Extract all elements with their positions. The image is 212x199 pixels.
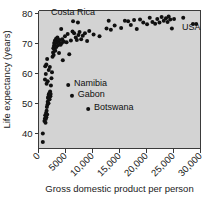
labeled-data-point: [86, 107, 90, 111]
data-point: [76, 21, 80, 25]
data-point: [132, 18, 136, 22]
data-point: [67, 52, 71, 56]
data-point: [181, 16, 185, 20]
data-point: [52, 53, 56, 57]
x-tick-label: 30,000: [176, 150, 204, 178]
y-tick-label: 50: [22, 98, 33, 109]
data-point: [45, 109, 49, 113]
plot-background: [39, 11, 201, 149]
data-point: [92, 33, 96, 37]
data-point: [57, 51, 61, 55]
data-point: [85, 39, 89, 43]
data-point: [46, 79, 50, 83]
data-point: [138, 18, 142, 22]
x-tick-label: 10,000: [68, 150, 96, 178]
data-point: [78, 30, 82, 34]
data-point: [41, 140, 45, 144]
data-point: [61, 58, 65, 62]
data-point: [157, 21, 161, 25]
data-point: [44, 121, 48, 125]
data-point: [83, 31, 87, 35]
x-tick-label: 5000: [46, 150, 69, 173]
data-point: [46, 101, 50, 105]
data-point: [105, 27, 109, 31]
x-tick-label: 20,000: [122, 150, 150, 178]
data-point: [69, 39, 73, 43]
data-point: [107, 19, 111, 23]
data-point: [172, 17, 176, 21]
data-point: [65, 40, 69, 44]
data-point: [66, 32, 70, 36]
y-tick-label: 60: [22, 68, 33, 79]
data-point: [50, 70, 54, 74]
x-axis-ticks: 0500010,00015,00020,00025,00030,000: [30, 149, 204, 179]
data-point: [148, 16, 152, 20]
annotation-label: Costa Rica: [51, 7, 95, 17]
annotation-label: Gabon: [78, 89, 105, 99]
data-point: [113, 24, 117, 28]
data-point: [170, 27, 174, 31]
x-tick-label: 15,000: [95, 150, 123, 178]
y-tick-label: 70: [22, 38, 33, 49]
data-point: [49, 84, 53, 88]
data-point: [44, 72, 48, 76]
data-point: [145, 22, 149, 26]
data-point: [44, 63, 48, 67]
data-point: [119, 26, 123, 30]
data-point: [126, 19, 130, 23]
y-axis-ticks: 4050607080: [22, 8, 39, 139]
data-point: [98, 34, 102, 38]
data-point: [141, 21, 145, 25]
y-axis-title: Life expectancy (years): [1, 30, 12, 128]
y-tick-label: 40: [22, 128, 33, 139]
annotation-label: Botswana: [94, 102, 134, 112]
labeled-data-point: [70, 94, 74, 98]
x-tick-label: 25,000: [149, 150, 177, 178]
data-point: [155, 17, 159, 21]
data-point: [45, 57, 49, 61]
data-point: [49, 92, 53, 96]
data-point: [48, 65, 52, 69]
data-point: [45, 113, 49, 117]
scatter-plot: 0500010,00015,00020,00025,00030,000 4050…: [0, 0, 212, 199]
data-point: [168, 18, 172, 22]
data-point: [87, 29, 91, 33]
data-point: [59, 27, 63, 31]
data-point: [72, 31, 76, 35]
data-point: [41, 132, 45, 136]
data-point: [135, 27, 139, 31]
data-point: [53, 49, 57, 53]
data-point: [153, 22, 157, 26]
data-point: [109, 28, 113, 32]
labeled-data-point: [66, 83, 70, 87]
y-tick-label: 80: [22, 8, 33, 19]
data-point: [79, 37, 83, 41]
x-axis-title: Gross domestic product per person: [45, 183, 193, 194]
data-point: [49, 76, 53, 80]
data-point: [75, 38, 79, 42]
data-point: [160, 15, 164, 19]
annotation-label: USA: [182, 22, 201, 32]
chart-figure: 0500010,00015,00020,00025,00030,000 4050…: [0, 0, 212, 199]
labeled-data-point: [71, 19, 75, 23]
annotation-label: Namibia: [74, 78, 107, 88]
data-point: [129, 23, 133, 27]
x-tick-label: 0: [30, 150, 42, 162]
